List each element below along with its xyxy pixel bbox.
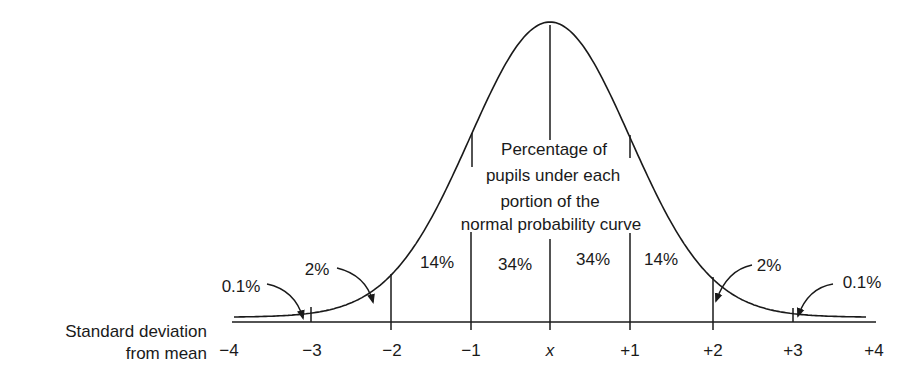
- region-label-right-34: 34%: [576, 250, 610, 269]
- normal-curve-diagram: Percentage of pupils under each portion …: [0, 0, 918, 382]
- tick-minus1: −1: [461, 341, 480, 360]
- arrow-left-2: [337, 268, 373, 302]
- region-label-left-34: 34%: [498, 255, 532, 274]
- tick-plus1: +1: [620, 341, 639, 360]
- axis-label-line-1: Standard deviation: [65, 322, 207, 341]
- region-label-left-14: 14%: [420, 253, 454, 272]
- region-label-left-2: 2%: [305, 260, 330, 279]
- title-line-2: pupils under each: [486, 166, 620, 185]
- region-label-left-tail: 0.1%: [222, 277, 261, 296]
- arrow-right-tail: [798, 284, 833, 316]
- region-label-right-2: 2%: [757, 256, 782, 275]
- tick-plus2: +2: [703, 341, 722, 360]
- tick-plus3: +3: [783, 341, 802, 360]
- title-line-3: portion of the: [500, 192, 599, 211]
- title-line-4: normal probability curve: [461, 215, 641, 234]
- tick-minus4: −4: [219, 341, 238, 360]
- tick-minus2: −2: [382, 341, 401, 360]
- region-label-right-tail: 0.1%: [843, 273, 882, 292]
- tick-mean: x: [545, 341, 555, 360]
- title-line-1: Percentage of: [501, 140, 607, 159]
- region-label-right-14: 14%: [644, 250, 678, 269]
- arrow-left-tail: [267, 284, 303, 318]
- tick-minus3: −3: [302, 341, 321, 360]
- axis-label-line-2: from mean: [126, 344, 207, 363]
- tick-plus4: +4: [864, 341, 883, 360]
